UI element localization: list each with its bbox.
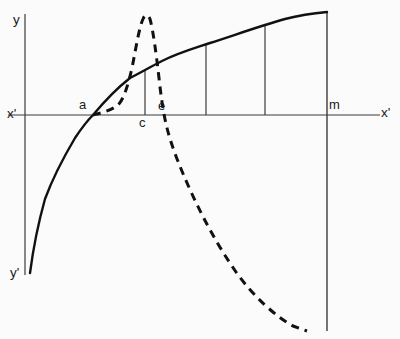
marginal-curve-dashed [93, 15, 307, 331]
diagram-canvas [0, 0, 400, 339]
point-label-e: e [158, 99, 165, 112]
y-axis-label-bottom: y' [10, 266, 19, 280]
point-label-a: a [79, 98, 86, 111]
x-axis-label-right: x' [381, 106, 390, 120]
point-label-c: c [139, 116, 146, 129]
point-label-m: m [329, 98, 340, 111]
y-axis-label-top: y [13, 13, 20, 27]
curve-diagram-figure: y y' x' x' a c e m [0, 0, 400, 339]
x-axis-label-left: x' [7, 107, 16, 121]
total-curve-solid [30, 12, 327, 273]
